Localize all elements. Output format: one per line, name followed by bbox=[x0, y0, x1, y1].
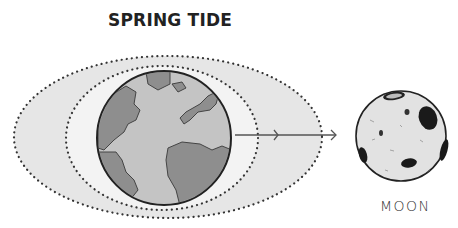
moon-label: MOON bbox=[380, 198, 431, 214]
spring-tide-diagram bbox=[0, 0, 458, 228]
moon bbox=[356, 91, 450, 181]
